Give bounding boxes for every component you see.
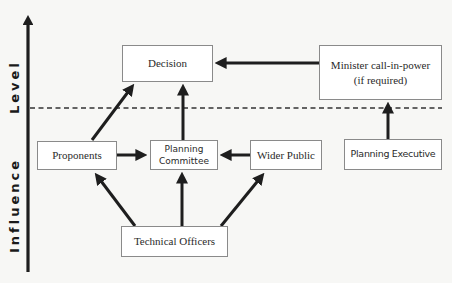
node-wider-public-label: Wider Public xyxy=(257,148,315,162)
axis-label-level: Level xyxy=(7,80,23,114)
node-decision-label: Decision xyxy=(148,56,187,70)
node-decision: Decision xyxy=(122,45,213,82)
node-proponents: Proponents xyxy=(37,141,117,170)
node-planning-committee-line2: Committee xyxy=(159,155,209,167)
node-minister-line1: Minister call-in-power xyxy=(331,58,430,72)
axis-label-influence: Influence xyxy=(7,169,23,253)
node-planning-executive: Planning Executive xyxy=(344,139,442,170)
node-proponents-label: Proponents xyxy=(52,148,102,162)
arrow-proponents-to-decision xyxy=(92,88,131,140)
node-planning-committee: Planning Committee xyxy=(150,140,218,170)
node-minister-line2: (if required) xyxy=(354,73,407,87)
node-planning-executive-label: Planning Executive xyxy=(351,148,436,160)
arrow-officers-to-public xyxy=(221,177,261,226)
arrow-officers-to-proponents xyxy=(98,177,135,226)
node-minister-call-in-power: Minister call-in-power (if required) xyxy=(319,45,442,100)
node-technical-officers-label: Technical Officers xyxy=(134,234,215,248)
node-planning-committee-line1: Planning xyxy=(165,143,204,155)
node-technical-officers: Technical Officers xyxy=(121,226,228,257)
node-wider-public: Wider Public xyxy=(250,140,322,170)
